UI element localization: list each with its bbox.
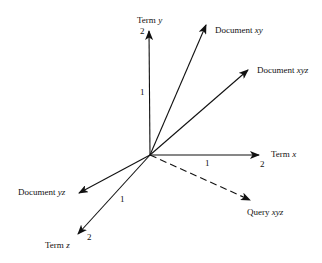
query-xyz-var: xyz: [272, 207, 284, 217]
query-xyz-label: Query xyz: [247, 208, 283, 217]
vector-space-diagram: [0, 0, 322, 263]
term-y-var: y: [158, 15, 162, 25]
document-xyz-label: Document xyz: [257, 66, 308, 75]
term-x-tick-1: 1: [205, 159, 210, 168]
document-yz-var: yz: [58, 187, 66, 197]
document-xyz-word: Document: [257, 65, 295, 75]
document-xy-label: Document xy: [215, 26, 263, 35]
document-xy-var: xy: [255, 25, 263, 35]
term-y-word: Term: [137, 15, 156, 25]
term-z-tick-1: 1: [120, 195, 125, 204]
document-xy-arrow: [150, 25, 206, 155]
query-xyz-word: Query: [247, 207, 270, 217]
term-x-tick-2: 2: [260, 160, 265, 169]
term-x-var: x: [292, 149, 296, 159]
document-xyz-arrow: [150, 70, 248, 155]
query-xyz-arrow: [150, 155, 250, 200]
term-y-axis-arrow: [149, 31, 150, 155]
term-z-axis-arrow: [78, 155, 150, 234]
document-xyz-var: xyz: [297, 65, 309, 75]
term-y-label: Term y: [137, 16, 162, 25]
document-yz-arrow: [79, 155, 150, 193]
term-z-word: Term: [45, 240, 64, 250]
term-x-label: Term x: [271, 150, 296, 159]
document-yz-word: Document: [18, 187, 56, 197]
document-xy-word: Document: [215, 25, 253, 35]
document-yz-label: Document yz: [18, 188, 65, 197]
term-y-tick-1: 1: [140, 88, 145, 97]
term-y-tick-2: 2: [140, 27, 145, 36]
term-z-label: Term z: [45, 241, 70, 250]
term-x-word: Term: [271, 149, 290, 159]
term-z-var: z: [66, 240, 70, 250]
term-z-tick-2: 2: [87, 233, 92, 242]
